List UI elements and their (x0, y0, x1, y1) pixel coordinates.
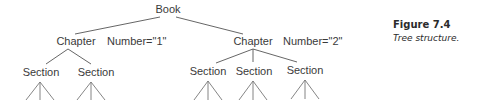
edge-chapter-2-section-1 (216, 49, 253, 63)
chapter-attribute-1: Number="1" (107, 35, 167, 47)
section-node: Section (78, 66, 115, 78)
chapter-node-1: Chapter (56, 35, 95, 47)
edge-chapter-2-section-3 (253, 49, 297, 62)
figure-title: Tree structure. (393, 32, 459, 45)
edge-chapter-1-section-2 (68, 49, 91, 64)
leaf-fan (239, 81, 267, 100)
edge-chapter-1-section-1 (46, 49, 68, 64)
section-node: Section (190, 65, 227, 77)
edge-book-chapter-2 (176, 17, 243, 34)
section-node: Section (287, 64, 324, 76)
root-node-book: Book (155, 3, 181, 15)
chapter-node-2: Chapter (233, 35, 272, 47)
section-node: Section (236, 65, 273, 77)
section-node: Section (23, 66, 60, 78)
tree-diagram: Book Chapter Number="1" Chapter Number="… (0, 0, 481, 100)
edge-book-chapter-1 (75, 17, 160, 34)
leaf-fan (194, 81, 222, 100)
leaf-fan (291, 80, 319, 99)
leaf-fan (77, 82, 105, 100)
chapter-attribute-2: Number="2" (283, 35, 343, 47)
figure-number: Figure 7.4 (393, 18, 459, 31)
leaf-fan (26, 82, 54, 100)
figure-caption: Figure 7.4 Tree structure. (393, 18, 459, 45)
